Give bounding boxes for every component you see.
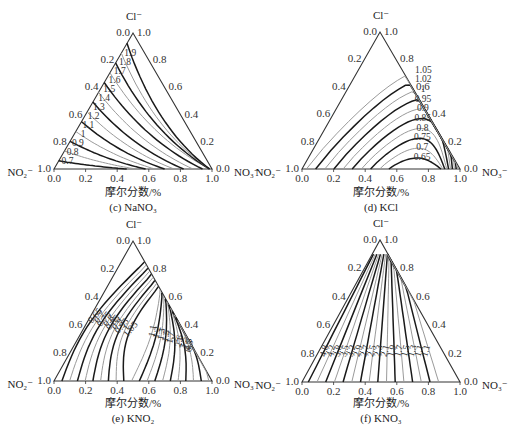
right-tick-label: 0.4 <box>184 108 198 120</box>
contour-label: 0.9 <box>72 138 84 148</box>
panel-caption: (e) KNO₂ <box>112 412 155 425</box>
bottom-tick-label: 0.8 <box>422 385 436 397</box>
left-tick-label: 0.6 <box>316 318 330 330</box>
contour-line <box>127 43 210 169</box>
right-tick-label: 0.2 <box>200 346 214 358</box>
left-tick-label: 0.4 <box>85 80 99 92</box>
ternary-panel-d: 0.00.20.40.60.81.01.00.80.60.40.20.00.00… <box>255 9 507 214</box>
right-tick-label: 1.0 <box>137 26 151 38</box>
contour-label: 1.02 <box>415 74 432 84</box>
left-tick-label: 0.2 <box>348 261 362 273</box>
bottom-tick-label: 0.6 <box>390 172 404 184</box>
right-tick-label: 0.4 <box>432 107 446 119</box>
contour-label: 0.65 <box>414 152 431 162</box>
left-tick-label: 0.0 <box>363 233 377 245</box>
contour-label: 0.8 <box>67 147 79 157</box>
vertex-label-right: NO₃⁻ <box>482 166 508 178</box>
right-tick-label: 0.4 <box>184 318 198 330</box>
bottom-tick-label: 0.8 <box>174 384 188 396</box>
vertex-label-left: NO₂⁻ <box>255 379 281 391</box>
bottom-tick-label: 0.2 <box>79 172 93 184</box>
left-tick-label: 1.0 <box>285 162 299 174</box>
bottom-tick-label: 0.4 <box>110 384 124 396</box>
bottom-tick-label: 0.2 <box>79 384 93 396</box>
contour-label: 1.6 <box>109 75 121 85</box>
contour-label: 1.1 <box>82 120 94 130</box>
bottom-tick-label: 0.6 <box>390 385 404 397</box>
vertex-label-right: NO₃⁻ <box>482 379 508 391</box>
contour-label: 0.95 <box>415 94 432 104</box>
right-tick-label: 1.0 <box>384 25 398 37</box>
left-tick-label: 0.0 <box>363 25 377 37</box>
bottom-tick-label: 0.2 <box>327 385 341 397</box>
left-tick-label: 0.6 <box>69 318 83 330</box>
right-tick-label: 0.4 <box>432 318 446 330</box>
contour-label: 0.7 <box>416 142 428 152</box>
right-tick-label: 0.6 <box>416 290 430 302</box>
ternary-figure: 0.00.20.40.60.81.01.00.80.60.40.20.00.00… <box>0 0 516 441</box>
contour-line <box>378 254 388 382</box>
left-tick-label: 0.4 <box>332 80 346 92</box>
left-tick-label: 0.2 <box>348 52 362 64</box>
contour-label: 1.7 <box>114 66 126 76</box>
bottom-tick-label: 0.4 <box>110 172 124 184</box>
bottom-tick-label: 0.6 <box>142 172 156 184</box>
panel-caption: (d) KCl <box>364 201 398 214</box>
vertex-label-top: Cl⁻ <box>373 9 389 21</box>
axis-label: 摩尔分数/% <box>353 396 409 409</box>
left-tick-label: 0.8 <box>301 347 315 359</box>
right-tick-label: 0.2 <box>200 135 214 147</box>
contour-label: 1.2 <box>88 111 100 121</box>
contour-label: 1.5 <box>103 84 115 94</box>
left-tick-label: 0.0 <box>116 26 130 38</box>
left-tick-label: 0.8 <box>53 135 67 147</box>
contour-label: 1 <box>81 129 86 139</box>
contour-label: 0.7 <box>62 156 74 166</box>
right-tick-label: 0.0 <box>216 374 230 386</box>
bottom-tick-label: 0.4 <box>358 385 372 397</box>
right-tick-label: 0.0 <box>216 162 230 174</box>
contour-label: 1.9 <box>124 48 136 58</box>
contour-label: 1.3 <box>93 102 105 112</box>
left-tick-label: 0.0 <box>116 234 130 246</box>
contour-label: 1 <box>421 84 426 94</box>
left-tick-label: 0.2 <box>100 262 114 274</box>
left-tick-label: 0.6 <box>69 108 83 120</box>
axis-label: 摩尔分数/% <box>353 185 409 198</box>
contour-line <box>387 254 389 382</box>
contour-label: 0.8 <box>417 123 429 133</box>
axis-label: 摩尔分数/% <box>105 396 161 409</box>
right-tick-label: 0.6 <box>169 80 183 92</box>
vertex-label-left: NO₂⁻ <box>255 166 281 178</box>
bottom-tick-label: 0.4 <box>358 172 372 184</box>
panel-caption: (f) KNO₃ <box>360 412 402 425</box>
vertex-label-left: NO₂⁻ <box>7 166 33 178</box>
left-tick-label: 1.0 <box>37 374 51 386</box>
right-tick-label: 1.0 <box>384 233 398 245</box>
right-tick-label: 0.8 <box>400 261 414 273</box>
contour-label: 1.4 <box>98 93 110 103</box>
ternary-panel-e: 0.00.20.40.60.81.01.00.80.60.40.20.00.00… <box>7 218 259 425</box>
right-tick-label: 0.2 <box>448 135 462 147</box>
right-tick-label: 0.8 <box>153 262 167 274</box>
contour-label: 1.8 <box>119 57 131 67</box>
contour-label: 0.9 <box>417 103 429 113</box>
bottom-tick-label: 0.2 <box>327 172 341 184</box>
right-tick-label: 0.8 <box>400 52 414 64</box>
right-tick-label: 0.0 <box>464 375 478 387</box>
right-tick-label: 0.6 <box>169 290 183 302</box>
left-tick-label: 0.8 <box>301 135 315 147</box>
triangle-frame <box>54 241 212 381</box>
bottom-tick-label: 0.8 <box>422 172 436 184</box>
left-tick-label: 1.0 <box>37 162 51 174</box>
left-tick-label: 0.4 <box>332 290 346 302</box>
bottom-tick-label: 0.6 <box>142 384 156 396</box>
ternary-panel-c: 0.00.20.40.60.81.01.00.80.60.40.20.00.00… <box>7 10 259 214</box>
contour-label: 1.05 <box>415 65 432 75</box>
bottom-tick-label: 0.8 <box>174 172 188 184</box>
left-tick-label: 0.8 <box>53 346 67 358</box>
left-tick-label: 1.0 <box>285 375 299 387</box>
right-tick-label: 0.8 <box>153 53 167 65</box>
ternary-panel-f: 0.00.20.40.60.81.01.00.80.60.40.20.00.00… <box>255 217 507 425</box>
panel-caption: (c) NaNO₃ <box>109 201 157 214</box>
